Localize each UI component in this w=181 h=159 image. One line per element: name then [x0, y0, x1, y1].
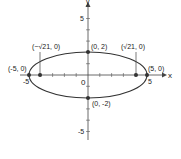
axes: [20, 6, 162, 140]
x-axis-arrow-icon: [162, 73, 167, 78]
point-vertex-left: [27, 73, 31, 77]
x-tick-0: 0: [81, 78, 86, 87]
point-focus-right: [134, 73, 138, 77]
label-vertex-right: (5, 0): [148, 65, 164, 73]
x-axis-label: x: [168, 71, 172, 80]
label-vertex-left: (-5, 0): [8, 65, 27, 73]
label-covertex-bottom: (0, -2): [92, 100, 111, 108]
point-focus-left: [38, 73, 42, 77]
point-vertex-right: [145, 73, 149, 77]
point-covertex-top: [86, 50, 90, 54]
point-covertex-bottom: [86, 96, 90, 100]
ellipse-chart: x y -5 0 5 5 -5 (-5, 0) (5, 0) (0, 2) (0…: [0, 0, 181, 159]
label-focus-right: (√21, 0): [121, 43, 145, 51]
x-tick-neg5: -5: [23, 78, 29, 85]
x-tick-5: 5: [148, 78, 152, 85]
label-covertex-top: (0, 2): [91, 43, 107, 51]
y-tick-5: 5: [80, 15, 84, 22]
label-focus-left: (−√21, 0): [32, 43, 60, 51]
y-tick-neg5: -5: [78, 128, 84, 135]
